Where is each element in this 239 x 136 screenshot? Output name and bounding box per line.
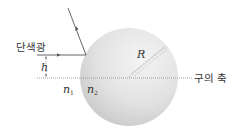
refractive-index-n1-label: n 1	[63, 83, 74, 96]
svg-text:2: 2	[94, 89, 98, 96]
incident-ray-arrow-icon	[57, 53, 61, 56]
height-arrow-top-icon	[45, 56, 47, 59]
sphere-axis-label: 구의 축	[194, 72, 227, 84]
height-arrow-bottom-icon	[45, 75, 47, 78]
svg-text:1: 1	[70, 89, 74, 96]
reflected-ray	[68, 8, 86, 55]
height-label: h	[41, 61, 48, 74]
radius-label: R	[136, 48, 145, 61]
sphere-refraction-diagram: 단색광 h R 구의 축 n 1 n 2	[0, 0, 239, 136]
monochromatic-light-label: 단색광	[16, 41, 46, 53]
